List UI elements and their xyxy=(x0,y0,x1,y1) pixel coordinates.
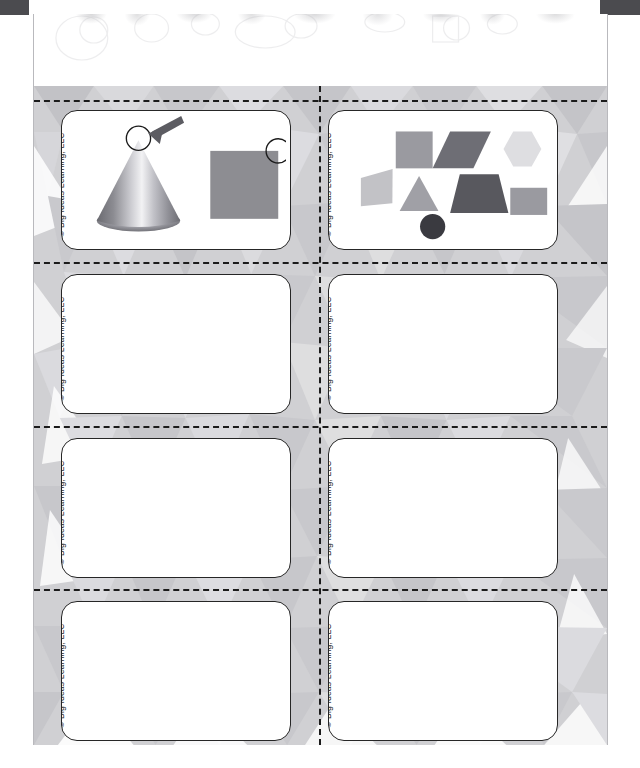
shape-hexagon xyxy=(504,131,542,166)
copyright-notice: © Big Ideas Learning, LLC xyxy=(61,623,66,728)
card-r4c2[interactable]: © Big Ideas Learning, LLC xyxy=(328,601,558,741)
card-r3c2[interactable]: © Big Ideas Learning, LLC xyxy=(328,438,558,578)
illustration-cone-and-square xyxy=(88,113,286,247)
shape-trapezoid xyxy=(450,174,508,213)
page-header-whitespace xyxy=(34,14,607,86)
scan-artifact-top-left-bar xyxy=(0,0,29,15)
scan-ghost-band xyxy=(34,14,607,40)
card-r4c1[interactable]: © Big Ideas Learning, LLC xyxy=(61,601,291,741)
copyright-notice: © Big Ideas Learning, LLC xyxy=(328,132,333,237)
copyright-notice: © Big Ideas Learning, LLC xyxy=(328,623,333,728)
copyright-notice: © Big Ideas Learning, LLC xyxy=(328,460,333,565)
card-r1c2[interactable]: © Big Ideas Learning, LLC xyxy=(328,110,558,250)
illustration-assorted-polygons xyxy=(355,113,553,247)
arrow-to-cone-vertex xyxy=(148,116,184,144)
card-r3c1[interactable]: © Big Ideas Learning, LLC xyxy=(61,438,291,578)
screenshot-root: © Big Ideas Learning, LLC xyxy=(0,0,640,768)
copyright-notice: © Big Ideas Learning, LLC xyxy=(61,132,66,237)
card-sheet: © Big Ideas Learning, LLC xyxy=(34,86,607,745)
card-r1c1[interactable]: © Big Ideas Learning, LLC xyxy=(61,110,291,250)
shape-rectangle xyxy=(510,188,547,215)
copyright-notice: © Big Ideas Learning, LLC xyxy=(328,296,333,401)
card-r2c2[interactable]: © Big Ideas Learning, LLC xyxy=(328,274,558,414)
card-r2c1[interactable]: © Big Ideas Learning, LLC xyxy=(61,274,291,414)
scan-ghost-rings-icon xyxy=(34,14,607,74)
shape-circle xyxy=(420,214,445,239)
square-shape xyxy=(210,151,278,219)
scanned-page: © Big Ideas Learning, LLC xyxy=(33,14,608,745)
scan-artifact-top-right-bar xyxy=(600,0,640,15)
cone-shape xyxy=(97,140,180,231)
shape-square xyxy=(396,131,433,168)
shape-parallelogram xyxy=(433,131,491,168)
copyright-notice: © Big Ideas Learning, LLC xyxy=(61,296,66,401)
shape-triangle xyxy=(400,176,439,211)
copyright-notice: © Big Ideas Learning, LLC xyxy=(61,460,66,565)
shape-rhombus xyxy=(355,169,402,212)
